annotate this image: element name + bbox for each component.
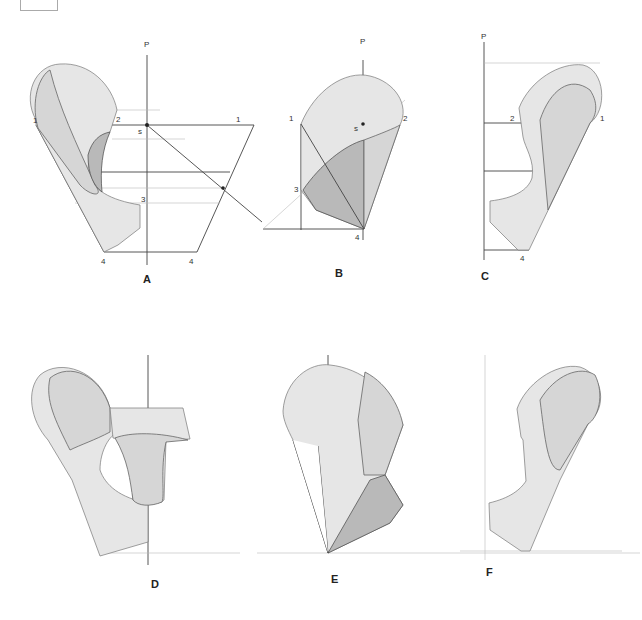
panel-e-caption: E	[331, 573, 338, 585]
panel-b-caption: B	[335, 267, 343, 279]
svg-text:s: s	[354, 124, 358, 133]
svg-text:4: 4	[520, 254, 525, 263]
pelvis-construction-drawing: P 1 2 s 1 3 4 4 A P 1 s	[0, 0, 642, 620]
panel-c: P 2 1 4 C	[481, 32, 605, 282]
panel-b-axis-label: P	[360, 37, 365, 46]
panel-c-caption: C	[481, 270, 489, 282]
panel-f: F	[460, 355, 622, 578]
svg-text:1: 1	[236, 115, 241, 124]
panel-a-caption: A	[143, 273, 151, 285]
svg-text:2: 2	[403, 114, 408, 123]
panel-d: D	[32, 355, 240, 590]
panel-d-caption: D	[151, 578, 159, 590]
svg-text:2: 2	[116, 115, 121, 124]
panel-a-axis-label: P	[144, 40, 149, 49]
panel-f-caption: F	[486, 566, 493, 578]
svg-text:3: 3	[294, 185, 299, 194]
svg-text:1: 1	[600, 114, 605, 123]
panel-c-axis-label: P	[481, 32, 486, 41]
svg-text:1: 1	[33, 116, 38, 125]
panel-b: P 1 s 2 3 4 B	[263, 37, 408, 279]
svg-text:s: s	[138, 127, 142, 136]
svg-text:4: 4	[189, 257, 194, 266]
svg-text:1: 1	[289, 114, 294, 123]
svg-text:2: 2	[510, 114, 515, 123]
svg-text:3: 3	[141, 195, 146, 204]
panel-a: P 1 2 s 1 3 4 4 A	[30, 40, 262, 285]
svg-text:4: 4	[101, 257, 106, 266]
svg-text:4: 4	[355, 233, 360, 242]
